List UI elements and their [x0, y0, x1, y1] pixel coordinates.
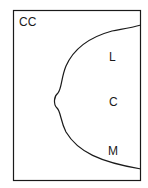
frame-border	[14, 11, 141, 181]
region-label-medial: M	[108, 145, 118, 157]
region-label-central: C	[109, 96, 118, 108]
view-label: CC	[19, 16, 36, 28]
region-label-lateral: L	[109, 51, 116, 63]
breast-contour	[54, 25, 141, 169]
